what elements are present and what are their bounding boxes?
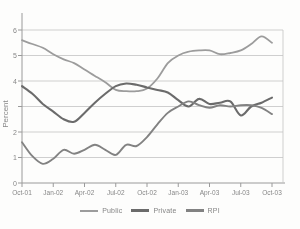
legend-label-public: Public xyxy=(102,207,122,214)
y-axis-title: Percent xyxy=(1,99,10,127)
axes xyxy=(18,13,285,187)
legend-item-public: Public xyxy=(80,207,122,214)
y-tick-label-6: 6 xyxy=(13,27,17,34)
series-line-public xyxy=(22,36,272,91)
y-tick-label-5: 5 xyxy=(13,52,17,59)
x-tick-label-apr-03: Apr-03 xyxy=(200,189,220,197)
y-tick-label-2: 2 xyxy=(13,129,17,136)
x-tick-label-oct-01: Oct-01 xyxy=(12,189,32,196)
x-tick-label-oct-02: Oct-02 xyxy=(137,189,157,196)
x-tick-label-jul-03: Jul-03 xyxy=(232,189,250,196)
chart-figure: 012456Oct-01Jan-02Apr-02Jul-02Oct-02Jan-… xyxy=(0,0,300,229)
y-tick-label-0: 0 xyxy=(13,180,17,187)
legend-label-private: Private xyxy=(153,207,176,214)
legend-swatch-rpi xyxy=(186,209,204,212)
legend-item-private: Private xyxy=(131,207,176,214)
legend-label-rpi: RPI xyxy=(208,207,220,214)
legend-swatch-public xyxy=(80,210,98,212)
series-line-rpi xyxy=(22,101,272,164)
x-tick-label-oct-03: Oct-03 xyxy=(262,189,282,196)
x-tick-label-jan-02: Jan-02 xyxy=(43,189,63,196)
legend-swatch-private xyxy=(131,209,149,212)
y-tick-label-4: 4 xyxy=(13,78,17,85)
line-chart: 012456Oct-01Jan-02Apr-02Jul-02Oct-02Jan-… xyxy=(0,0,300,205)
x-tick-label-jul-02: Jul-02 xyxy=(107,189,125,196)
legend-item-rpi: RPI xyxy=(186,207,220,214)
x-tick-label-jan-03: Jan-03 xyxy=(168,189,188,196)
chart-legend: PublicPrivateRPI xyxy=(0,207,300,214)
x-tick-label-apr-02: Apr-02 xyxy=(75,189,95,197)
y-tick-label-1: 1 xyxy=(13,154,17,161)
